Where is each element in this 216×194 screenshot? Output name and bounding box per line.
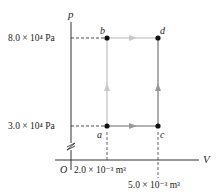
- pressure-tick-8e4: 8.0 × 10⁴ Pa: [8, 33, 55, 43]
- arrow-up-icon: [155, 83, 161, 91]
- pv-diagram: b d a c p V O 8.0 × 10⁴ Pa 3.0 × 10⁴ Pa …: [0, 0, 216, 194]
- label-a: a: [97, 129, 102, 140]
- axis-break-icon: [67, 143, 75, 150]
- v-axis-label: V: [203, 153, 211, 165]
- label-c: c: [160, 129, 165, 140]
- volume-tick-2e-3: 2.0 × 10⁻³ m³: [74, 165, 126, 175]
- arrow-right-icon: [129, 123, 137, 129]
- point-a: [104, 123, 109, 128]
- label-b: b: [100, 25, 105, 36]
- p-axis-label: p: [67, 8, 74, 20]
- point-b: [104, 35, 109, 40]
- volume-tick-5e-3: 5.0 × 10⁻³ m³: [128, 180, 180, 190]
- origin-label: O: [60, 164, 67, 175]
- arrow-up-icon: [104, 83, 110, 91]
- point-d: [155, 35, 160, 40]
- label-d: d: [160, 25, 166, 36]
- pressure-tick-3e4: 3.0 × 10⁴ Pa: [8, 121, 55, 131]
- point-c: [155, 123, 160, 128]
- arrow-right-icon: [129, 35, 137, 41]
